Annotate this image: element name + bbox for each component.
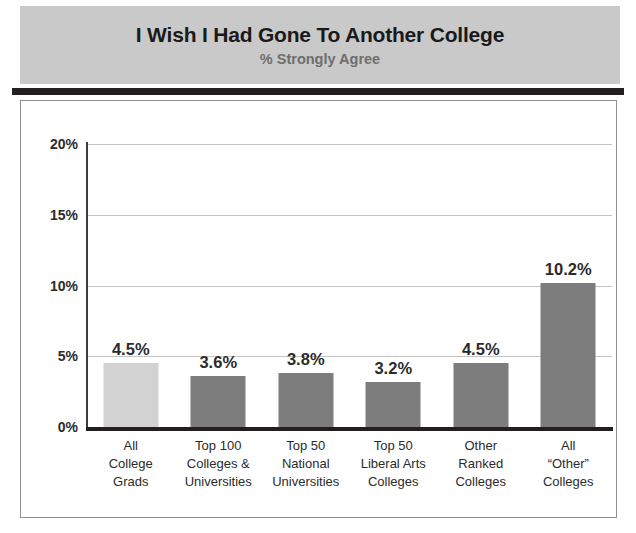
x-category-label: Top 50Liberal ArtsColleges (350, 437, 438, 491)
x-category-label: Top 50NationalUniversities (262, 437, 350, 491)
x-category-label-line: All (525, 437, 613, 455)
bar-value-label: 10.2% (545, 260, 592, 279)
bar[interactable] (191, 376, 246, 427)
bar[interactable] (366, 382, 421, 427)
x-category-label: Top 100Colleges &Universities (175, 437, 263, 491)
x-category-label-line: Ranked (437, 455, 525, 473)
x-axis-category-labels: AllCollegeGradsTop 100Colleges &Universi… (87, 437, 612, 515)
bar-series: 4.5%3.6%3.8%3.2%4.5%10.2% (87, 144, 612, 427)
chart-figure: I Wish I Had Gone To Another College % S… (0, 0, 636, 533)
x-category-label-line: Liberal Arts (350, 455, 438, 473)
y-axis-tick-labels: 0%5%10%15%20% (8, 144, 78, 427)
bar-slot: 3.8% (262, 144, 350, 427)
x-category-label-line: National (262, 455, 350, 473)
x-category-label-line: “Other” (525, 455, 613, 473)
bar[interactable] (541, 283, 596, 427)
chart-subtitle: % Strongly Agree (260, 51, 380, 67)
chart-header: I Wish I Had Gone To Another College % S… (20, 6, 620, 84)
bar[interactable] (453, 363, 508, 427)
bar[interactable] (278, 373, 333, 427)
y-tick-label: 0% (14, 419, 78, 435)
bar-slot: 10.2% (525, 144, 613, 427)
bar-value-label: 3.2% (374, 359, 412, 378)
bar-slot: 4.5% (437, 144, 525, 427)
header-divider (12, 88, 624, 95)
y-tick-label: 15% (14, 207, 78, 223)
x-category-label-line: College (87, 455, 175, 473)
x-category-label: All“Other”Colleges (525, 437, 613, 491)
x-category-label-line: Universities (175, 473, 263, 491)
bar-value-label: 3.8% (287, 350, 325, 369)
x-category-label: AllCollegeGrads (87, 437, 175, 491)
page-title: I Wish I Had Gone To Another College (136, 23, 504, 46)
y-tick-label: 10% (14, 278, 78, 294)
bar-value-label: 4.5% (462, 340, 500, 359)
y-tick-label: 5% (14, 348, 78, 364)
bar[interactable] (103, 363, 158, 427)
bar-slot: 3.6% (175, 144, 263, 427)
x-category-label-line: Universities (262, 473, 350, 491)
x-category-label-line: Grads (87, 473, 175, 491)
x-category-label-line: Other (437, 437, 525, 455)
bar-value-label: 3.6% (199, 353, 237, 372)
x-category-label-line: Top 50 (262, 437, 350, 455)
x-axis-line (86, 427, 613, 431)
bar-value-label: 4.5% (112, 340, 150, 359)
x-category-label-line: All (87, 437, 175, 455)
x-category-label: OtherRankedColleges (437, 437, 525, 491)
x-category-label-line: Top 100 (175, 437, 263, 455)
bar-slot: 4.5% (87, 144, 175, 427)
x-category-label-line: Top 50 (350, 437, 438, 455)
bar-slot: 3.2% (350, 144, 438, 427)
y-tick-label: 20% (14, 136, 78, 152)
x-category-label-line: Colleges (437, 473, 525, 491)
x-category-label-line: Colleges (350, 473, 438, 491)
x-category-label-line: Colleges & (175, 455, 263, 473)
x-category-label-line: Colleges (525, 473, 613, 491)
